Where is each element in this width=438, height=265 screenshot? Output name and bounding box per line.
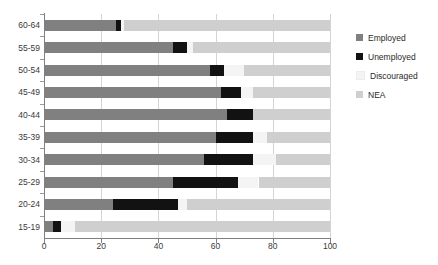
stacked-bar [44,20,330,31]
bar-segment-discouraged [238,177,258,188]
x-tick-mark [101,239,102,243]
bar-segment-employed [44,42,173,53]
y-tick-label-40-44: 40-44 [18,110,40,120]
bar-segment-employed [44,87,221,98]
bar-segment-nea [244,65,330,76]
y-tick-label-35-39: 35-39 [18,132,40,142]
bar-row [44,65,330,76]
bar-segment-discouraged [224,65,244,76]
bar-row [44,87,330,98]
bar-segment-discouraged [178,199,187,210]
bar-segment-employed [44,132,216,143]
bar-row [44,221,330,232]
stacked-bar [44,199,330,210]
bar-row [44,199,330,210]
bar-segment-nea [267,132,330,143]
legend-item-employed[interactable]: Employed [356,28,436,47]
stacked-bar [44,65,330,76]
stacked-bar-chart: 60-6455-5950-5445-4940-4435-3930-3425-29… [0,0,438,265]
bar-segment-employed [44,154,204,165]
y-tick-mark [40,59,44,60]
gridline-100 [330,14,331,238]
x-tick-mark [330,239,331,243]
bar-segment-employed [44,221,53,232]
x-axis-line [44,238,331,239]
bar-segment-employed [44,109,227,120]
bar-segment-discouraged [253,132,267,143]
x-tick-mark [158,239,159,243]
legend-swatch-employed [356,34,363,41]
bar-segment-unemployed [173,42,187,53]
stacked-bar [44,154,330,165]
bar-segment-nea [187,199,330,210]
plot-area [44,14,330,238]
bar-segment-discouraged [253,154,276,165]
y-tick-label-60-64: 60-64 [18,20,40,30]
bar-segment-nea [193,42,330,53]
x-tick-mark [273,239,274,243]
bar-row [44,177,330,188]
bar-segment-nea [75,221,330,232]
bar-segment-discouraged [241,87,252,98]
bar-segment-nea [253,109,330,120]
bar-segment-nea [124,20,330,31]
bar-row [44,132,330,143]
y-tick-mark [40,148,44,149]
y-tick-label-45-49: 45-49 [18,87,40,97]
x-tick-mark [216,239,217,243]
legend-swatch-unemployed [356,53,363,60]
bar-segment-nea [276,154,330,165]
stacked-bar [44,177,330,188]
y-tick-label-20-24: 20-24 [18,199,40,209]
bar-rows [44,14,330,238]
bar-segment-nea [253,87,330,98]
bar-segment-unemployed [113,199,179,210]
bar-segment-unemployed [53,221,62,232]
legend-swatch-nea [356,91,363,98]
bar-segment-employed [44,65,210,76]
legend-label: Employed [368,33,406,43]
bar-row [44,109,330,120]
bar-segment-employed [44,20,116,31]
stacked-bar [44,221,330,232]
legend-item-unemployed[interactable]: Unemployed [356,47,436,66]
legend-label: NEA [368,90,385,100]
x-axis-tick-labels: 020406080100 [0,241,360,257]
stacked-bar [44,87,330,98]
y-tick-mark [40,216,44,217]
bar-row [44,42,330,53]
y-tick-mark [40,14,44,15]
stacked-bar [44,109,330,120]
bar-segment-employed [44,177,173,188]
bar-segment-unemployed [210,65,224,76]
x-tick-mark [44,239,45,243]
stacked-bar [44,42,330,53]
legend-label: Discouraged [370,71,418,81]
y-tick-label-15-19: 15-19 [18,222,40,232]
y-axis-tick-labels: 60-6455-5950-5445-4940-4435-3930-3425-29… [0,14,40,238]
y-tick-mark [40,193,44,194]
bar-segment-unemployed [221,87,241,98]
bar-segment-employed [44,199,113,210]
y-tick-mark [40,81,44,82]
legend-swatch-discouraged [356,71,365,80]
stacked-bar [44,132,330,143]
legend-label: Unemployed [368,52,416,62]
bar-segment-unemployed [216,132,253,143]
legend-item-nea[interactable]: NEA [356,85,436,104]
y-tick-mark [40,36,44,37]
y-tick-mark [40,171,44,172]
y-tick-mark [40,104,44,105]
bar-segment-unemployed [227,109,253,120]
y-tick-label-55-59: 55-59 [18,43,40,53]
bar-segment-discouraged [61,221,75,232]
bar-row [44,20,330,31]
bar-segment-unemployed [204,154,253,165]
y-tick-label-25-29: 25-29 [18,177,40,187]
legend-item-discouraged[interactable]: Discouraged [356,66,436,85]
y-tick-label-30-34: 30-34 [18,155,40,165]
chart-legend: EmployedUnemployedDiscouragedNEA [356,28,436,104]
y-tick-mark [40,126,44,127]
bar-row [44,154,330,165]
bar-segment-unemployed [173,177,239,188]
